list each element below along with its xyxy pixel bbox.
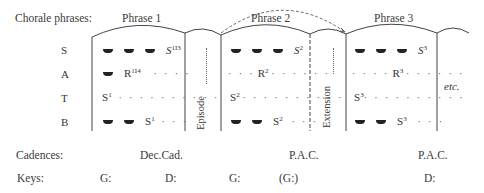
note-icon — [103, 120, 113, 124]
episode-dots — [206, 48, 208, 84]
chorale-phrases-label: Chorale phrases: — [15, 12, 92, 24]
phrase2-soprano: S2 — [231, 44, 303, 56]
phrase3-soprano: S3 — [355, 44, 427, 56]
phrase1-alto: R1I4 · · · · — [103, 67, 191, 79]
episode-arc — [185, 29, 221, 35]
note-icon — [355, 49, 365, 53]
phrase-3-label: Phrase 3 — [374, 12, 413, 24]
keys-label: Keys: — [17, 172, 44, 184]
phrase3-arc — [346, 24, 437, 34]
extension-dots — [333, 48, 335, 74]
key-4: (G:) — [279, 172, 298, 184]
note-icon — [124, 49, 134, 53]
note-icon — [252, 120, 262, 124]
etc-label: etc. — [444, 80, 460, 92]
cadence-2: P.A.C. — [289, 149, 319, 161]
cadence-1: Dec.Cad. — [140, 149, 183, 161]
phrase2-alto: · · · R2 · · · · · · — [228, 67, 330, 79]
note-icon — [376, 49, 386, 53]
key-1: G: — [100, 172, 112, 184]
extension-label: Extension — [321, 86, 332, 128]
phrase-1-label: Phrase 1 — [122, 12, 161, 24]
voice-label-s: S — [61, 44, 67, 56]
cadence-3: P.A.C. — [418, 149, 448, 161]
note-icon — [252, 49, 262, 53]
episode-label: Episode — [195, 96, 206, 130]
phrase3-bass: S3 · · · — [355, 115, 444, 127]
voice-label-b: B — [61, 116, 68, 128]
phrase2-arc — [221, 25, 310, 35]
dashed-arc-arrowhead — [340, 28, 345, 32]
phrase1-bass: S1 · · · — [103, 115, 188, 127]
phrase1-soprano: S1I3 — [103, 44, 181, 56]
phrase-2-label: Phrase 2 — [251, 12, 290, 24]
phrase3-alto: · · · · R3 · · · · · · — [352, 67, 465, 79]
note-icon — [103, 72, 113, 76]
phrase3-tenor: S3· · · · · · · · · · — [354, 91, 465, 103]
note-icon — [103, 49, 113, 53]
key-2: D: — [165, 172, 177, 184]
note-icon — [397, 49, 407, 53]
note-icon — [145, 49, 155, 53]
note-icon — [231, 120, 241, 124]
phrase2-bass: S2 · · · — [231, 115, 318, 127]
voice-label-t: T — [61, 92, 68, 104]
key-5: D: — [424, 172, 436, 184]
note-icon — [231, 49, 241, 53]
etc-arc — [437, 28, 469, 33]
note-icon — [273, 49, 283, 53]
phrase1-arc — [92, 25, 185, 37]
cadences-label: Cadences: — [16, 149, 63, 161]
key-3: G: — [229, 172, 241, 184]
note-icon — [376, 120, 386, 124]
note-icon — [355, 120, 365, 124]
note-icon — [124, 120, 134, 124]
voice-label-a: A — [61, 68, 69, 80]
